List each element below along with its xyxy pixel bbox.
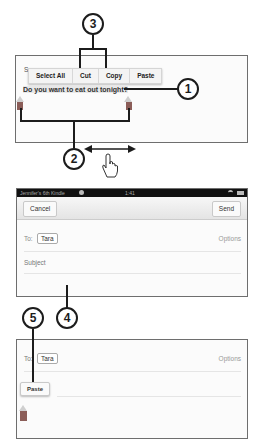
cancel-button[interactable]: Cancel (23, 201, 57, 217)
cursor-handle[interactable] (20, 411, 27, 421)
to-label: To: (24, 235, 33, 242)
callout-1: 1 (177, 78, 199, 100)
callout-1-leader (124, 88, 178, 90)
callout-2-bracket (20, 120, 130, 122)
selected-text[interactable]: Do you want to eat out tonight? (23, 86, 128, 93)
callout-4-stem (66, 285, 68, 308)
battery-icon (237, 191, 244, 195)
context-menu: Select All Cut Copy Paste (28, 68, 162, 84)
cut-menu-item[interactable]: Cut (73, 69, 99, 83)
callout-3-leg-right (105, 48, 107, 68)
divider (57, 396, 241, 397)
paste-menu-item[interactable]: Paste (130, 69, 161, 83)
callout-2-stem (73, 120, 75, 148)
divider (24, 273, 241, 274)
recipient-chip[interactable]: Tara (37, 233, 58, 244)
callout-3-leg-left (79, 48, 81, 68)
callout-3-stem (92, 35, 94, 49)
wifi-icon (228, 190, 233, 195)
paste-panel: To: Tara Options Paste (16, 339, 248, 439)
device-name: Jennifer's 6th Kindle (20, 189, 65, 197)
select-all-menu-item[interactable]: Select All (29, 69, 73, 83)
compose-panel: Jennifer's 6th Kindle 1:41 Cancel Send T… (16, 188, 248, 297)
send-button[interactable]: Send (212, 201, 241, 217)
callout-5: 5 (22, 307, 44, 329)
options-link[interactable]: Options (219, 235, 241, 242)
status-bar: Jennifer's 6th Kindle 1:41 (17, 189, 247, 197)
status-time: 1:41 (125, 189, 135, 197)
paste-button[interactable]: Paste (20, 382, 50, 396)
hand-pointer-icon (98, 153, 122, 179)
recipient-chip[interactable]: Tara (37, 353, 58, 364)
divider (24, 371, 241, 372)
callout-2: 2 (63, 148, 85, 170)
callout-3-bracket (79, 48, 107, 50)
compose-toolbar: Cancel Send (17, 197, 247, 220)
callout-4: 4 (56, 307, 78, 329)
options-link[interactable]: Options (219, 355, 241, 362)
callout-5-stem (32, 329, 34, 382)
callout-3: 3 (82, 13, 104, 35)
divider (24, 251, 241, 252)
copy-menu-item[interactable]: Copy (99, 69, 130, 83)
subject-field[interactable]: Subject (24, 259, 46, 266)
notification-icon (79, 190, 84, 195)
